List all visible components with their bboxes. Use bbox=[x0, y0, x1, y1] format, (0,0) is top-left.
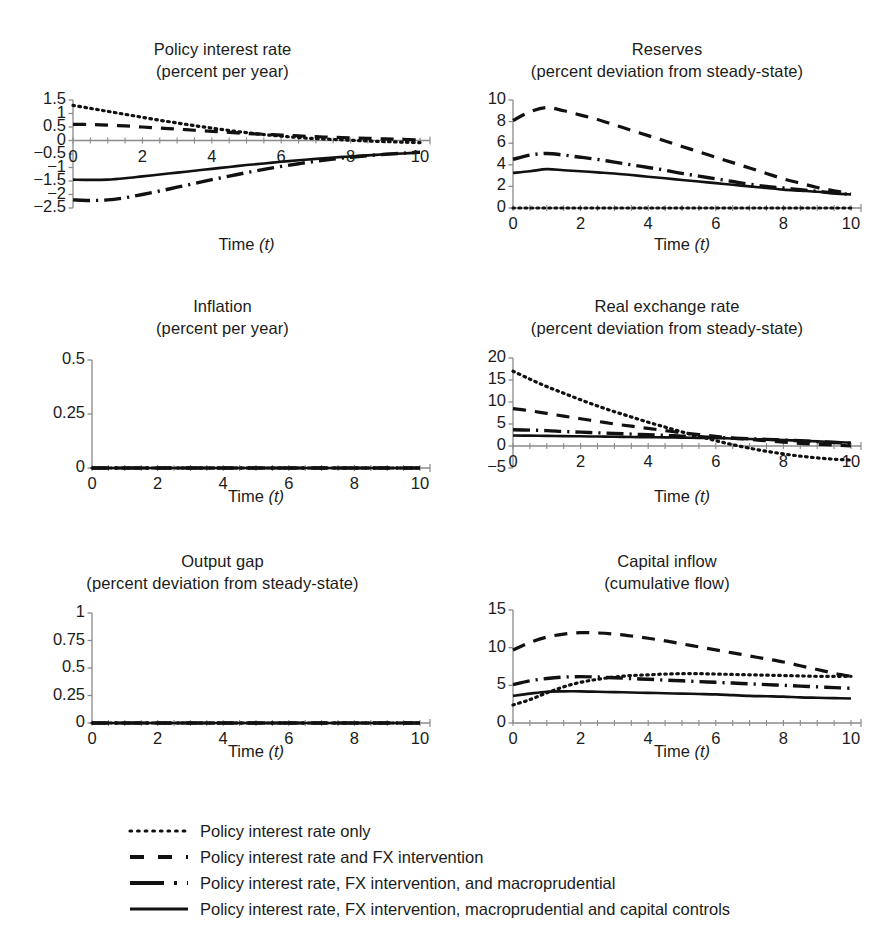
series-line-solid bbox=[513, 691, 851, 698]
y-tick-label: 6 bbox=[458, 132, 506, 151]
x-tick-label: 6 bbox=[696, 214, 736, 233]
plot-area-output-gap bbox=[0, 550, 445, 808]
plot-area-reserves bbox=[445, 38, 889, 293]
x-axis-label-variable: (t) bbox=[269, 487, 285, 505]
y-tick-label: 20 bbox=[458, 347, 506, 366]
x-axis-label-variable: (t) bbox=[259, 235, 275, 253]
legend-label: Policy interest rate, FX intervention, m… bbox=[200, 900, 730, 918]
chart-panel-output-gap: Output gap(percent deviation from steady… bbox=[0, 550, 445, 808]
chart-legend: Policy interest rate onlyPolicy interest… bbox=[128, 818, 848, 922]
x-tick-label: 4 bbox=[628, 214, 668, 233]
chart-panel-inflation: Inflation(percent per year)00.250.502468… bbox=[0, 295, 445, 550]
x-tick-label: 10 bbox=[400, 147, 440, 166]
legend-item-dashdot: Policy interest rate, FX intervention, a… bbox=[128, 870, 848, 896]
figure-impulse-responses: Policy interest rate(percent per year)1.… bbox=[0, 0, 889, 947]
x-tick-label: 6 bbox=[261, 147, 301, 166]
x-axis-label-variable: (t) bbox=[269, 742, 285, 760]
x-tick-label: 2 bbox=[122, 147, 162, 166]
chart-panel-reserves: Reserves(percent deviation from steady-s… bbox=[445, 38, 889, 293]
legend-label: Policy interest rate only bbox=[200, 822, 371, 840]
legend-item-dotted: Policy interest rate only bbox=[128, 818, 848, 844]
x-axis-label: Time (t) bbox=[33, 235, 460, 254]
x-axis-label: Time (t) bbox=[473, 487, 889, 506]
legend-label: Policy interest rate, FX intervention, a… bbox=[200, 874, 615, 892]
x-axis-label: Time (t) bbox=[473, 235, 889, 254]
x-tick-label: 0 bbox=[493, 452, 533, 471]
y-tick-label: 10 bbox=[458, 89, 506, 108]
y-tick-label: 2 bbox=[458, 175, 506, 194]
y-tick-label: 10 bbox=[458, 637, 506, 656]
y-tick-label: 0.25 bbox=[3, 403, 85, 422]
x-tick-label: 4 bbox=[628, 452, 668, 471]
legend-item-solid: Policy interest rate, FX intervention, m… bbox=[128, 896, 848, 922]
legend-label: Policy interest rate and FX intervention bbox=[200, 848, 483, 866]
x-axis-label-text: Time bbox=[654, 235, 690, 253]
y-tick-label: 5 bbox=[458, 674, 506, 693]
x-axis-label-text: Time bbox=[218, 235, 254, 253]
x-tick-label: 0 bbox=[53, 147, 93, 166]
x-axis-label-text: Time bbox=[654, 742, 690, 760]
chart-panel-capital-inflow: Capital inflow(cumulative flow)051015024… bbox=[445, 550, 889, 808]
x-axis-label: Time (t) bbox=[473, 742, 889, 761]
chart-panel-real-exchange-rate: Real exchange rate(percent deviation fro… bbox=[445, 295, 889, 550]
x-tick-label: 10 bbox=[831, 452, 871, 471]
x-axis-label-text: Time bbox=[654, 487, 690, 505]
legend-line-swatch-dotted bbox=[128, 823, 190, 839]
x-tick-label: 8 bbox=[763, 214, 803, 233]
legend-line-swatch-solid bbox=[128, 901, 190, 917]
y-tick-label: 10 bbox=[458, 391, 506, 410]
x-tick-label: 0 bbox=[493, 214, 533, 233]
x-tick-label: 6 bbox=[696, 452, 736, 471]
plot-area-policy-interest-rate bbox=[0, 38, 445, 293]
x-tick-label: 10 bbox=[831, 214, 871, 233]
y-tick-label: 0.25 bbox=[3, 685, 85, 704]
plot-area-inflation bbox=[0, 295, 445, 550]
y-tick-label: 0.5 bbox=[3, 657, 85, 676]
legend-line-swatch-dashed bbox=[128, 849, 190, 865]
y-tick-label: 15 bbox=[458, 369, 506, 388]
x-axis-label-variable: (t) bbox=[695, 487, 711, 505]
x-axis-label-variable: (t) bbox=[695, 742, 711, 760]
y-tick-label: 15 bbox=[458, 599, 506, 618]
series-line-dash-dot bbox=[513, 153, 851, 194]
x-axis-label-text: Time bbox=[228, 742, 264, 760]
y-tick-label: −2.5 bbox=[4, 197, 66, 216]
x-axis-label: Time (t) bbox=[52, 742, 460, 761]
y-tick-label: 4 bbox=[458, 154, 506, 173]
series-line-dotted bbox=[513, 674, 851, 705]
x-tick-label: 4 bbox=[192, 147, 232, 166]
x-axis-label: Time (t) bbox=[52, 487, 460, 506]
plot-area-real-exchange-rate bbox=[445, 295, 889, 550]
legend-line-swatch-dash-dot bbox=[128, 875, 190, 891]
plot-area-capital-inflow bbox=[445, 550, 889, 808]
x-axis-label-variable: (t) bbox=[695, 235, 711, 253]
series-line-dashed bbox=[513, 633, 851, 677]
y-tick-label: 5 bbox=[458, 413, 506, 432]
y-tick-label: 1 bbox=[3, 602, 85, 621]
y-tick-label: 0.5 bbox=[3, 349, 85, 368]
x-axis-label-text: Time bbox=[228, 487, 264, 505]
x-tick-label: 8 bbox=[763, 452, 803, 471]
x-tick-label: 8 bbox=[331, 147, 371, 166]
y-tick-label: 0.75 bbox=[3, 630, 85, 649]
y-tick-label: 8 bbox=[458, 111, 506, 130]
chart-panel-policy-interest-rate: Policy interest rate(percent per year)1.… bbox=[0, 38, 445, 293]
legend-item-dashed: Policy interest rate and FX intervention bbox=[128, 844, 848, 870]
x-tick-label: 2 bbox=[561, 214, 601, 233]
x-tick-label: 2 bbox=[561, 452, 601, 471]
